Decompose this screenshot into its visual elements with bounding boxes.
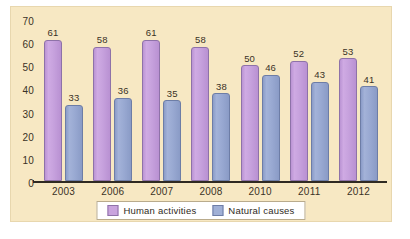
bar-wrapper: 38 bbox=[212, 21, 230, 181]
bar-value-label: 61 bbox=[146, 28, 157, 38]
y-axis-tick-70: 70 bbox=[22, 16, 34, 27]
bar-2007-human-activities bbox=[142, 40, 160, 181]
bar-wrapper: 58 bbox=[191, 21, 209, 181]
x-axis-tick-2003: 2003 bbox=[39, 186, 88, 197]
y-axis-tick-20: 20 bbox=[22, 131, 34, 142]
bar-value-label: 58 bbox=[195, 35, 206, 45]
chart-legend: Human activitiesNatural causes bbox=[96, 201, 305, 220]
bar-value-label: 36 bbox=[118, 86, 129, 96]
x-axis-tick-labels: 2003200620072008201020112012 bbox=[39, 186, 383, 197]
bar-value-label: 35 bbox=[167, 89, 178, 99]
bar-group-2010: 5046 bbox=[236, 21, 285, 181]
bar-2008-natural-causes bbox=[212, 93, 230, 181]
bar-value-label: 58 bbox=[97, 35, 108, 45]
bar-value-label: 46 bbox=[265, 63, 276, 73]
bar-value-label: 50 bbox=[244, 54, 255, 64]
x-axis-tick-2010: 2010 bbox=[236, 186, 285, 197]
x-axis-tick-2007: 2007 bbox=[137, 186, 186, 197]
bar-2011-human-activities bbox=[290, 61, 308, 181]
bar-wrapper: 43 bbox=[311, 21, 329, 181]
bar-wrapper: 46 bbox=[262, 21, 280, 181]
bar-groups: 6133583661355838504652435341 bbox=[39, 21, 383, 181]
bar-wrapper: 36 bbox=[114, 21, 132, 181]
plot-area: 010203040506070 613358366135583850465243… bbox=[39, 21, 383, 183]
bar-group-2003: 6133 bbox=[39, 21, 88, 181]
bar-wrapper: 53 bbox=[339, 21, 357, 181]
bar-2007-natural-causes bbox=[163, 100, 181, 181]
x-axis-tick-2008: 2008 bbox=[186, 186, 235, 197]
bar-wrapper: 41 bbox=[360, 21, 378, 181]
bar-value-label: 53 bbox=[342, 47, 353, 57]
bar-value-label: 41 bbox=[363, 75, 374, 85]
bar-wrapper: 33 bbox=[65, 21, 83, 181]
bar-group-2007: 6135 bbox=[137, 21, 186, 181]
bar-wrapper: 35 bbox=[163, 21, 181, 181]
bar-2008-human-activities bbox=[191, 47, 209, 181]
bar-2012-human-activities bbox=[339, 58, 357, 181]
y-axis-tick-60: 60 bbox=[22, 39, 34, 50]
bar-value-label: 43 bbox=[314, 70, 325, 80]
x-axis-line bbox=[33, 181, 387, 183]
legend-swatch-icon bbox=[212, 205, 223, 216]
legend-item-natural-causes: Natural causes bbox=[212, 205, 294, 216]
bar-2010-natural-causes bbox=[262, 75, 280, 181]
bar-wrapper: 52 bbox=[290, 21, 308, 181]
legend-item-human-activities: Human activities bbox=[107, 205, 196, 216]
bar-group-2006: 5836 bbox=[88, 21, 137, 181]
x-axis-tick-2006: 2006 bbox=[88, 186, 137, 197]
bar-wrapper: 61 bbox=[142, 21, 160, 181]
x-axis-tick-2012: 2012 bbox=[334, 186, 383, 197]
y-axis-tick-30: 30 bbox=[22, 108, 34, 119]
bar-group-2008: 5838 bbox=[186, 21, 235, 181]
legend-swatch-icon bbox=[107, 205, 118, 216]
bar-wrapper: 50 bbox=[241, 21, 259, 181]
y-axis-tick-40: 40 bbox=[22, 85, 34, 96]
bar-2011-natural-causes bbox=[311, 82, 329, 182]
bar-wrapper: 58 bbox=[93, 21, 111, 181]
bar-group-2011: 5243 bbox=[285, 21, 334, 181]
bar-value-label: 38 bbox=[216, 82, 227, 92]
bar-2006-natural-causes bbox=[114, 98, 132, 181]
bar-value-label: 61 bbox=[48, 28, 59, 38]
y-axis-tick-10: 10 bbox=[22, 154, 34, 165]
bar-wrapper: 61 bbox=[44, 21, 62, 181]
x-axis-tick-2011: 2011 bbox=[285, 186, 334, 197]
bar-2006-human-activities bbox=[93, 47, 111, 181]
bar-2003-human-activities bbox=[44, 40, 62, 181]
bar-2003-natural-causes bbox=[65, 105, 83, 181]
legend-label: Natural causes bbox=[228, 205, 294, 216]
bar-value-label: 33 bbox=[69, 93, 80, 103]
chart-figure: 010203040506070 613358366135583850465243… bbox=[10, 6, 392, 222]
bar-group-2012: 5341 bbox=[334, 21, 383, 181]
bar-2012-natural-causes bbox=[360, 86, 378, 181]
bar-2010-human-activities bbox=[241, 65, 259, 181]
bar-value-label: 52 bbox=[293, 49, 304, 59]
legend-label: Human activities bbox=[123, 205, 196, 216]
y-axis-tick-50: 50 bbox=[22, 62, 34, 73]
